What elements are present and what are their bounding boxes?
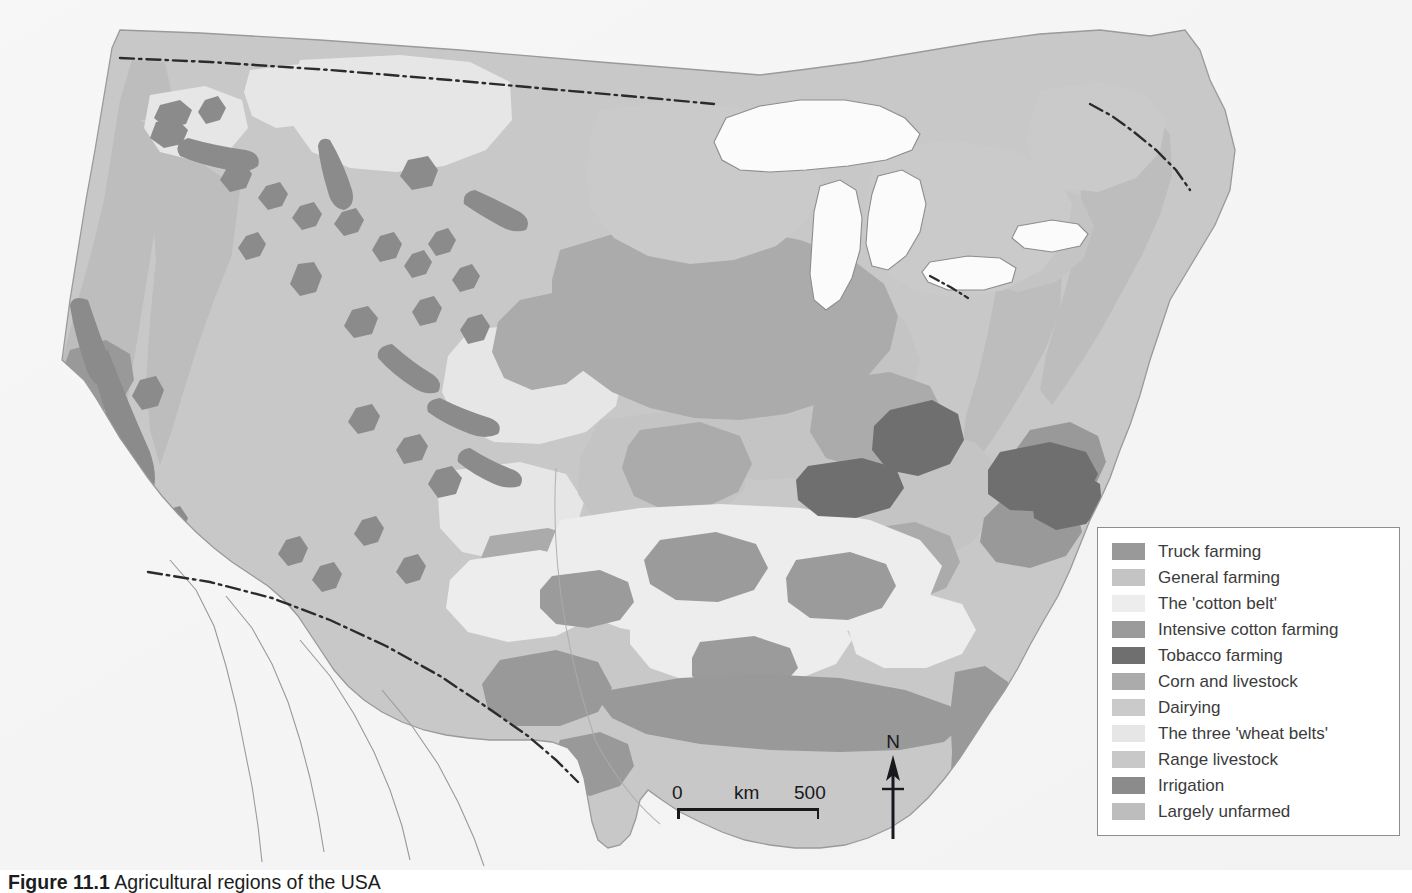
legend-item-corn-and-livestock[interactable]: Corn and livestock [1112, 668, 1389, 694]
figure-caption: Figure 11.1 Agricultural regions of the … [8, 872, 908, 893]
legend-item-dairying[interactable]: Dairying [1112, 694, 1389, 720]
legend-label-dairying: Dairying [1158, 698, 1220, 717]
scale-tick-start [677, 808, 680, 819]
legend-label-general-farming: General farming [1158, 568, 1280, 587]
legend-swatch-irrigation [1112, 777, 1145, 794]
scale-bar: 0 km 500 [672, 782, 848, 820]
legend-label-wheat-belts: The three 'wheat belts' [1158, 724, 1328, 743]
figure-caption-title: Agricultural regions of the USA [114, 872, 381, 893]
legend-swatch-largely-unfarmed [1112, 803, 1145, 820]
figure-caption-text: Figure 11.1 Agricultural regions of the … [8, 872, 908, 893]
legend-item-tobacco-farming[interactable]: Tobacco farming [1112, 642, 1389, 668]
legend-label-truck-farming: Truck farming [1158, 542, 1261, 561]
legend-swatch-wheat-belts [1112, 725, 1145, 742]
legend-swatch-range-livestock [1112, 751, 1145, 768]
legend-swatch-cotton-belt [1112, 595, 1145, 612]
scale-unit-label: km [734, 782, 759, 804]
figure-number: Figure 11.1 [8, 872, 110, 893]
lake-erie [922, 256, 1016, 290]
legend-item-wheat-belts[interactable]: The three 'wheat belts' [1112, 720, 1389, 746]
legend-item-general-farming[interactable]: General farming [1112, 564, 1389, 590]
scale-min-label: 0 [672, 782, 683, 804]
scale-tick-end [817, 808, 820, 819]
legend-label-range-livestock: Range livestock [1158, 750, 1278, 769]
north-label: N [872, 731, 914, 753]
legend-label-cotton-belt: The 'cotton belt' [1158, 594, 1277, 613]
scale-bar-labels: 0 km 500 [672, 782, 848, 806]
legend-swatch-truck-farming [1112, 543, 1145, 560]
legend-item-range-livestock[interactable]: Range livestock [1112, 746, 1389, 772]
map-legend: Truck farming General farming The 'cotto… [1097, 527, 1400, 836]
legend-item-irrigation[interactable]: Irrigation [1112, 772, 1389, 798]
legend-swatch-general-farming [1112, 569, 1145, 586]
north-arrow: N [872, 731, 914, 841]
legend-label-tobacco-farming: Tobacco farming [1158, 646, 1283, 665]
legend-item-largely-unfarmed[interactable]: Largely unfarmed [1112, 798, 1389, 824]
scale-bar-rule [677, 808, 819, 820]
scale-max-label: 500 [794, 782, 826, 804]
legend-label-intensive-cotton-farming: Intensive cotton farming [1158, 620, 1338, 639]
legend-swatch-tobacco-farming [1112, 647, 1145, 664]
lake-ontario [1012, 220, 1088, 252]
legend-item-intensive-cotton-farming[interactable]: Intensive cotton farming [1112, 616, 1389, 642]
legend-label-largely-unfarmed: Largely unfarmed [1158, 802, 1290, 821]
legend-item-cotton-belt[interactable]: The 'cotton belt' [1112, 590, 1389, 616]
legend-swatch-corn-and-livestock [1112, 673, 1145, 690]
legend-swatch-dairying [1112, 699, 1145, 716]
legend-label-irrigation: Irrigation [1158, 776, 1224, 795]
legend-swatch-intensive-cotton-farming [1112, 621, 1145, 638]
scale-bar-line [677, 808, 819, 811]
figure-agricultural-regions-usa: 0 km 500 N Truck farming General [0, 0, 1412, 893]
legend-label-corn-and-livestock: Corn and livestock [1158, 672, 1298, 691]
legend-item-truck-farming[interactable]: Truck farming [1112, 538, 1389, 564]
